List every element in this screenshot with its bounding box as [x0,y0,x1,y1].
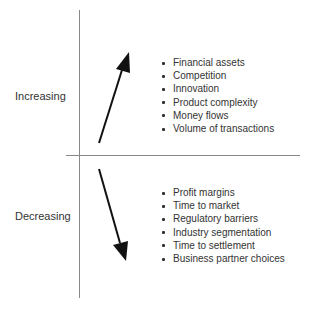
increasing-label: Increasing [15,90,66,102]
increasing-list: Financial assets Competition Innovation … [160,56,274,135]
list-item: Innovation [160,82,274,95]
list-item: Business partner choices [160,252,285,265]
list-item: Profit margins [160,186,285,199]
decreasing-label: Decreasing [15,210,71,222]
diagram-axes [0,0,309,313]
list-item: Time to market [160,199,285,212]
list-item: Industry segmentation [160,226,285,239]
list-item: Financial assets [160,56,274,69]
list-item: Product complexity [160,96,274,109]
list-item: Money flows [160,109,274,122]
list-item: Competition [160,69,274,82]
list-item: Time to settlement [160,239,285,252]
decreasing-list: Profit margins Time to market Regulatory… [160,186,285,265]
list-item: Regulatory barriers [160,212,285,225]
list-item: Volume of transactions [160,122,274,135]
down-arrow-icon [99,169,128,261]
up-arrow-icon [99,52,130,143]
